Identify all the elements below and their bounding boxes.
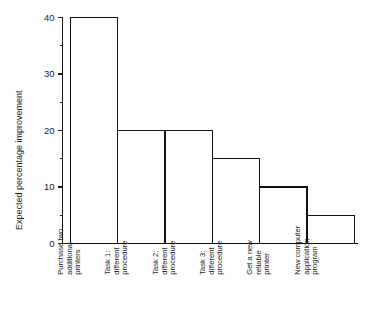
y-axis-tick-label: 40	[44, 12, 55, 23]
y-axis-tick-labels: 010203040	[44, 12, 55, 249]
x-axis-category-label-line: procedure	[216, 209, 225, 275]
bar-chart: 010203040 Expected percentage improvemen…	[0, 0, 377, 322]
y-axis-tick-label: 10	[44, 181, 55, 192]
x-axis-category-label-line: printers	[75, 209, 84, 275]
x-axis-category-label: Purchase twoadditionalprinters	[57, 209, 83, 275]
x-axis-category-label: Task 2:differentprocedure	[152, 209, 178, 275]
y-axis-title-text: Expected percentage improvement	[14, 90, 24, 230]
y-axis-tick-label: 30	[44, 68, 55, 79]
x-axis-category-label-line: New computer	[294, 209, 303, 275]
x-axis-category-label-line: printer	[264, 209, 273, 275]
x-axis-category-label-line: procedure	[169, 209, 178, 275]
x-axis-category-label: Task 3:differentprocedure	[199, 209, 225, 275]
x-axis-category-label: New computerapplicationprogram	[294, 209, 320, 275]
y-axis-tick-label: 0	[49, 238, 54, 249]
x-axis-category-label: Task 1:differentprocedure	[105, 209, 131, 275]
x-axis-category-label-line: program	[311, 209, 320, 275]
y-axis-title: Expected percentage improvement	[14, 90, 24, 230]
x-axis-category-label-line: procedure	[122, 209, 131, 275]
y-axis-tick-label: 20	[44, 125, 55, 136]
x-axis-category-label: Get a newreliableprinter	[247, 209, 273, 275]
